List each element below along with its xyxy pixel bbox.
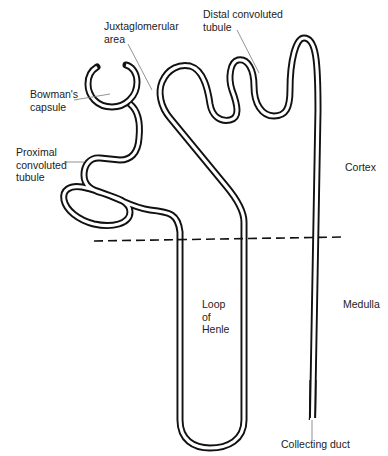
label-proximal-convoluted-tubule: Proximal convoluted tubule	[16, 146, 67, 184]
tubule-lumen	[64, 38, 318, 448]
label-medulla: Medulla	[343, 298, 380, 311]
label-loop-of-henle: Loop of Henle	[202, 298, 229, 336]
collecting-duct-wall-right	[316, 380, 317, 418]
label-cortex: Cortex	[345, 161, 376, 174]
label-juxtaglomerular-area: Juxtaglomerular area	[104, 20, 179, 45]
collecting-duct-wall-left	[310, 380, 311, 418]
label-collecting-duct: Collecting duct	[281, 438, 350, 451]
nephron-diagram: Juxtaglomerular area Distal convoluted t…	[0, 0, 388, 456]
cortex-medulla-boundary	[94, 237, 344, 241]
label-bowmans-capsule: Bowman's capsule	[30, 88, 78, 113]
nephron-drawing	[0, 0, 388, 456]
label-distal-convoluted-tubule: Distal convoluted tubule	[203, 8, 283, 33]
tubule-outer-wall	[64, 38, 318, 448]
